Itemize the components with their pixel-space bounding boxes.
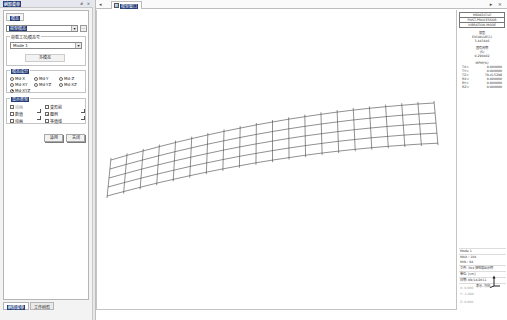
- radio-md-y[interactable]: Md-Y: [34, 76, 48, 81]
- model-viewport[interactable]: [96, 10, 456, 310]
- info-header: MIDAS/Civil POST-PROCESSOR VIBRATION MOD…: [459, 12, 505, 28]
- tab-mode[interactable]: 模态: [6, 13, 24, 21]
- mode-component-label: 模态成分: [11, 69, 29, 74]
- panel-title-controls[interactable]: # ×: [80, 1, 91, 6]
- tab-scroll-left-icon[interactable]: ◂: [99, 1, 102, 7]
- radio-md-z[interactable]: Md-Z: [59, 76, 74, 81]
- panel-bottom-tabs: 树形菜单 工作树形: [3, 302, 55, 310]
- panel-title-bar: 树形菜单 # ×: [0, 0, 93, 8]
- ellipsis-button[interactable]: ...: [80, 25, 87, 32]
- close-button[interactable]: 关闭: [66, 134, 85, 142]
- result-type-select[interactable]: 振型模态 ▾: [6, 25, 78, 32]
- result-info-panel: MIDAS/Civil POST-PROCESSOR VIBRATION MOD…: [456, 10, 507, 310]
- mode-select[interactable]: Mode 1 ▾: [10, 42, 82, 49]
- chevron-down-icon[interactable]: ▾: [75, 43, 81, 48]
- tab-model-window[interactable]: 模型窗口: [111, 1, 142, 9]
- mode-component-group: 模态成分 Md-X Md-Y Md-Z Md-XY Md-YZ Md-XZ Md…: [6, 70, 86, 93]
- checkbox-animate[interactable]: 动画: [10, 118, 23, 124]
- mode-shape-form: 模态 振型模态 ▾ ... 荷载工况/模态号 Mode 1 ▾ 多模态 模态成分…: [3, 10, 89, 300]
- document-tab-bar: ◂ 模型窗口 ▸ ×: [96, 0, 507, 9]
- load-case-group: 荷载工况/模态号 Mode 1 ▾ 多模态: [6, 36, 86, 66]
- checkbox-contour[interactable]: 等值线: [45, 118, 62, 124]
- chevron-down-icon[interactable]: ▾: [71, 26, 77, 31]
- tab-tree-menu[interactable]: 树形菜单: [3, 302, 29, 310]
- checkbox-undeformed[interactable]: 变形前: [45, 104, 62, 110]
- load-case-label: 荷载工况/模态号: [10, 34, 41, 40]
- panel-title: 树形菜单: [3, 1, 21, 7]
- multi-mode-button[interactable]: 多模态: [25, 54, 65, 62]
- checkbox-legend[interactable]: ✓图例: [45, 111, 58, 117]
- model-window-icon: [114, 3, 119, 8]
- radio-md-x[interactable]: Md-X: [10, 76, 25, 81]
- apply-button[interactable]: 适用: [44, 134, 63, 142]
- period-section: 固有周期 (S) 0.290402: [457, 46, 507, 58]
- radio-md-xyz[interactable]: Md-XYZ: [10, 88, 30, 93]
- tree-menu-panel: 树形菜单 # × 模态 振型模态 ▾ ... 荷载工况/模态号 Mode 1 ▾…: [0, 0, 93, 320]
- deformed-mesh: [97, 10, 457, 310]
- radio-md-yz[interactable]: Md-YZ: [34, 82, 51, 87]
- checkbox-values[interactable]: 数值: [10, 111, 23, 117]
- display-type-label: 显示类型: [11, 97, 29, 102]
- radio-md-xz[interactable]: Md-XZ: [59, 82, 77, 87]
- display-type-group: 显示类型 ✓动画 变形前 数值 ✓图例 动画 等值线: [6, 98, 86, 124]
- tab-work-tree[interactable]: 工作树形: [30, 302, 54, 310]
- mode-section: 振型 EIGVALUE(1) 3.443446: [457, 31, 507, 43]
- axis-triad-icon: [487, 275, 501, 289]
- checkbox-animation-disabled: ✓动画: [10, 104, 23, 110]
- mass-participation-section: MPM(%) TX=0.000000 TY=0.000000 TZ=79.415…: [457, 61, 507, 89]
- radio-md-xy[interactable]: Md-XY: [10, 82, 27, 87]
- window-controls[interactable]: ▸ ×: [490, 1, 504, 7]
